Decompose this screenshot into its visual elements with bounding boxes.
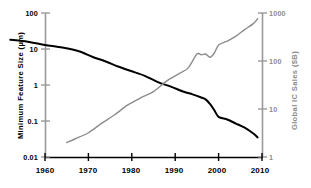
chart-figure: Minimum Feature Size (µm) Global IC Sale… — [0, 0, 311, 188]
plot-canvas — [0, 0, 311, 188]
series-line-global-ic-sales — [67, 19, 258, 143]
series-line-minimum-feature-size — [10, 40, 257, 138]
